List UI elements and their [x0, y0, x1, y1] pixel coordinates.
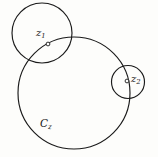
circle-diagram-figure: z1 z2 Cz [0, 0, 158, 157]
label-z1: z1 [36, 28, 46, 40]
label-z2-subscript: 2 [136, 78, 140, 86]
label-z1-subscript: 1 [41, 32, 45, 40]
label-cz-base: C [40, 117, 48, 129]
label-cz-subscript: z [48, 122, 52, 131]
label-cz: Cz [40, 118, 52, 130]
point-marker-z1 [46, 42, 50, 46]
large-circle-cz [18, 37, 130, 149]
label-z2: z2 [131, 74, 141, 86]
point-marker-z2 [125, 79, 129, 83]
